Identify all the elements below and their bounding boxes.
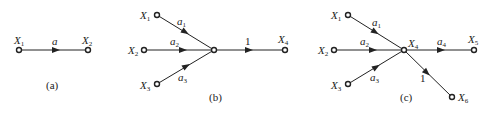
signal-flow-graphs: X1 X2 a (a) X1 X2 X3 X4 a1 a2 a3 1 (b): [0, 0, 486, 114]
node-x5: [472, 48, 477, 53]
node-x2: [332, 48, 337, 53]
caption-b: (b): [209, 91, 222, 104]
node-label-x2: X2: [317, 44, 329, 58]
node-label-x1: X1: [139, 9, 151, 23]
arrow-icon: [245, 47, 253, 53]
node-label-x2: X2: [127, 44, 139, 58]
arrow-icon: [52, 47, 60, 53]
node-x2: [86, 48, 91, 53]
caption-a: (a): [46, 79, 59, 92]
edge-gain-1: 1: [245, 35, 251, 47]
diagram-a: X1 X2 a (a): [13, 34, 93, 92]
diagram-b: X1 X2 X3 X4 a1 a2 a3 1 (b): [127, 9, 289, 104]
edge-gain-a3: a3: [370, 71, 380, 85]
arrow-icon: [181, 61, 191, 70]
node-label-x1: X1: [13, 34, 25, 48]
node-x1: [17, 48, 22, 53]
edge-gain-1: 1: [420, 72, 426, 84]
caption-c: (c): [400, 91, 413, 104]
edge-gain-a3: a3: [178, 71, 188, 85]
node-label-x1: X1: [330, 9, 342, 23]
node-label-x3: X3: [139, 79, 151, 93]
edge-gain-a: a: [52, 35, 58, 47]
edge-gain-a1: a1: [372, 16, 382, 30]
node-label-x2: X2: [81, 34, 93, 48]
node-x4: [402, 48, 407, 53]
arrow-icon: [179, 47, 187, 53]
node-label-x4: X4: [407, 37, 419, 51]
node-x4: [283, 48, 288, 53]
node-x1: [155, 13, 160, 18]
node-label-x3: X3: [330, 79, 342, 93]
node-x3: [346, 82, 351, 87]
node-junction: [212, 48, 217, 53]
edge-gain-a2: a2: [360, 35, 370, 49]
node-x1: [346, 13, 351, 18]
node-x6: [450, 95, 455, 100]
node-x3: [155, 82, 160, 87]
edge-gain-a4: a4: [437, 35, 447, 49]
edge-gain-a2: a2: [170, 35, 180, 49]
node-label-x4: X4: [277, 33, 289, 47]
edge-gain-a1: a1: [177, 15, 187, 29]
diagram-c: X1 X2 X3 X4 X5 X6 a1 a2 a3 a4 1 (c): [317, 9, 479, 105]
arrow-icon: [369, 47, 377, 53]
node-x2: [142, 48, 147, 53]
node-label-x5: X5: [467, 33, 479, 47]
node-label-x6: X6: [457, 91, 469, 105]
